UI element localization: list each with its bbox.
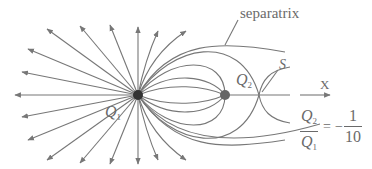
ratio-denominator: Q1 (300, 134, 318, 155)
fraction-bar (300, 131, 318, 132)
q1-radial-lines (15, 25, 186, 164)
q2-letter: Q (236, 71, 248, 88)
saddle-label: S (279, 58, 286, 72)
minus-sign: − (335, 120, 343, 134)
q1-letter: Q (105, 103, 117, 120)
q2-subscript: 2 (248, 80, 253, 90)
value-fraction-bar (344, 126, 362, 127)
q1-subscript: 1 (117, 112, 122, 122)
q1-label: Q1 (105, 104, 121, 122)
charge-ratio-fraction: Q2 Q1 (300, 108, 318, 155)
q1-to-q2-lines (138, 65, 225, 125)
ratio-numerator: Q2 (300, 108, 318, 129)
q1-charge (133, 90, 143, 100)
value-denominator: 10 (344, 129, 362, 145)
separatrix-pointer (225, 20, 238, 45)
q2-charge (220, 90, 230, 100)
axis-label: X (320, 78, 329, 91)
value-numerator: 1 (344, 108, 362, 124)
q2-label: Q2 (236, 72, 252, 90)
separatrix-label: separatrix (240, 6, 299, 21)
ratio-value-fraction: 1 10 (344, 108, 362, 145)
equals-sign: = (323, 120, 331, 134)
